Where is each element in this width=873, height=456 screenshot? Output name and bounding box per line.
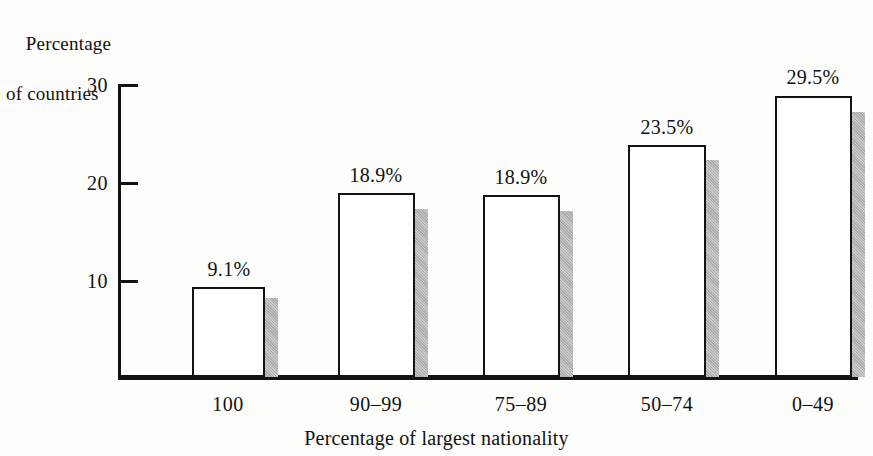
x-axis-category-label-5: 0–49 bbox=[763, 393, 863, 415]
bar-value-label-2: 18.9% bbox=[326, 164, 426, 186]
y-axis-tick-label-20: 20 bbox=[48, 173, 108, 193]
y-axis-line bbox=[118, 84, 121, 380]
y-axis-tick-label-10: 10 bbox=[48, 271, 108, 291]
bar-5[interactable] bbox=[775, 96, 852, 377]
bar-2[interactable] bbox=[338, 193, 415, 377]
x-axis-category-label-4: 50–74 bbox=[617, 393, 717, 415]
bar-chart-figure: Percentage of countries 10 20 30 9.1% 10… bbox=[0, 0, 873, 456]
y-axis-tick-30 bbox=[121, 84, 138, 87]
y-axis-tick-label-30: 30 bbox=[48, 75, 108, 95]
bar-value-label-3: 18.9% bbox=[471, 166, 571, 188]
y-axis-tick-20 bbox=[121, 182, 138, 185]
x-axis-category-label-2: 90–99 bbox=[326, 393, 426, 415]
x-axis-label: Percentage of largest nationality bbox=[0, 426, 873, 450]
bar-value-label-5: 29.5% bbox=[763, 66, 863, 88]
bar-value-label-4: 23.5% bbox=[617, 116, 717, 138]
y-axis-tick-10 bbox=[121, 280, 138, 283]
x-axis-category-label-1: 100 bbox=[178, 393, 278, 415]
x-axis-category-label-3: 75–89 bbox=[471, 393, 571, 415]
bar-value-label-1: 9.1% bbox=[179, 258, 279, 280]
bar-1[interactable] bbox=[192, 287, 265, 377]
plot-area: 10 20 30 9.1% 100 18.9% 90–99 18.9% 75–8… bbox=[0, 0, 873, 456]
bar-4[interactable] bbox=[628, 145, 706, 377]
bar-3[interactable] bbox=[483, 195, 560, 377]
